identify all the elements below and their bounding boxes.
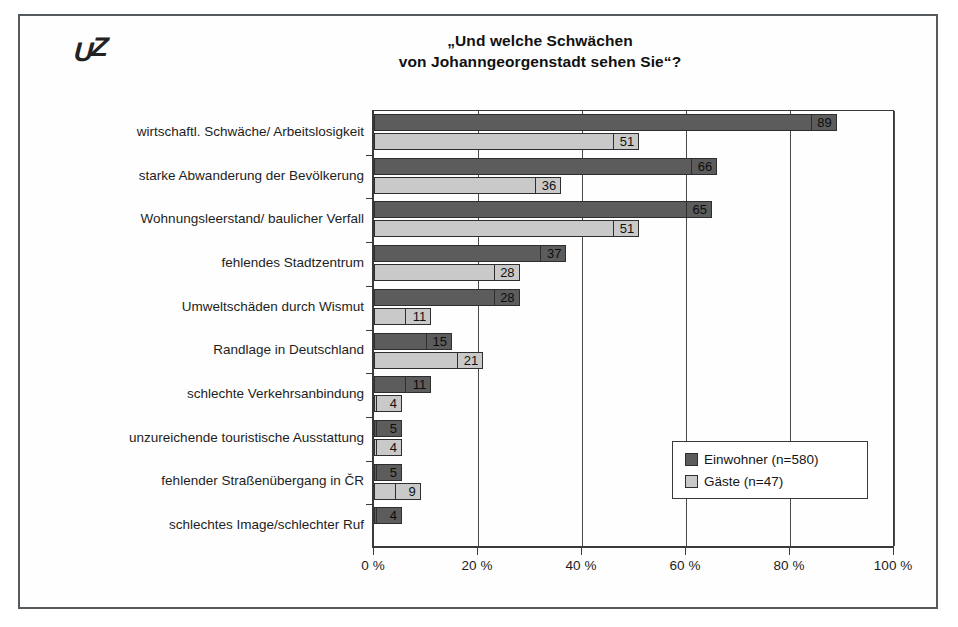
bar-ga [374,220,639,237]
category-label: Umweltschäden durch Wismut [40,299,364,315]
category-label: starke Abwanderung der Bevölkerung [40,168,364,184]
x-axis-tick [789,547,790,555]
y-axis-tick [366,198,374,199]
bar-value-label: 36 [535,177,561,194]
bar-value-label: 28 [494,264,520,281]
y-axis-tick [366,330,374,331]
y-axis-tick [366,504,374,505]
bar-ga [374,133,639,150]
bar-value-label: 21 [457,352,483,369]
bar-value-label: 51 [613,133,639,150]
y-axis-tick [366,417,374,418]
bar-value-label: 4 [376,507,402,524]
bar-ew [374,245,566,262]
y-axis-tick [366,286,374,287]
x-axis-label: 100 % [874,558,912,573]
chart-title-line-2: von Johanngeorgenstadt sehen Sie“? [300,51,780,72]
bar-value-label: 11 [405,308,431,325]
bar-ew [374,158,717,175]
bar-ew [374,114,837,131]
bar-value-label: 37 [540,245,566,262]
uz-logo: UZ [73,32,136,72]
category-label: wirtschaftl. Schwäche/ Arbeitslosigkeit [40,124,364,140]
bar-value-label: 4 [376,439,402,456]
x-axis-label: 40 % [566,558,597,573]
x-axis-tick [685,547,686,555]
bar-ga [374,177,561,194]
legend-swatch-icon [685,475,698,488]
legend-item: Gäste (n=47) [685,470,867,492]
gridline-100 [894,111,895,546]
bar-value-label: 66 [691,158,717,175]
bar-value-label: 4 [376,395,402,412]
category-label: Wohnungsleerstand/ baulicher Verfall [40,211,364,227]
bar-ew [374,201,712,218]
gridline-40 [582,111,583,546]
category-label: schlechtes Image/schlechter Ruf [40,517,364,533]
y-axis-tick [366,461,374,462]
bar-value-label: 28 [494,289,520,306]
x-axis-label: 0 % [361,558,384,573]
legend-item-label: Einwohner (n=580) [704,452,818,467]
bar-value-label: 65 [686,201,712,218]
y-axis-tick [366,155,374,156]
category-label: unzureichende touristische Ausstattung [40,430,364,446]
bar-value-label: 15 [426,333,452,350]
category-label: Randlage in Deutschland [40,342,364,358]
x-axis-tick [373,547,374,555]
x-axis-label: 20 % [462,558,493,573]
bar-value-label: 11 [405,376,431,393]
bar-value-label: 89 [811,114,837,131]
category-axis-labels: wirtschaftl. Schwäche/ Arbeitslosigkeits… [40,110,364,547]
category-label: fehlendes Stadtzentrum [40,255,364,271]
x-axis-tick [477,547,478,555]
chart-title-line-1: „Und welche Schwächen [300,30,780,51]
logo-letter-z: Z [89,27,106,67]
category-label: schlechte Verkehrsanbindung [40,386,364,402]
legend-item: Einwohner (n=580) [685,448,867,470]
bar-value-label: 9 [395,483,421,500]
bar-value-label: 51 [613,220,639,237]
bar-value-label: 5 [376,464,402,481]
bar-value-label: 5 [376,420,402,437]
chart-title: „Und welche Schwächen von Johanngeorgens… [300,30,780,72]
x-axis-label: 80 % [774,558,805,573]
y-axis-tick [366,373,374,374]
chart-legend: Einwohner (n=580)Gäste (n=47) [672,441,868,499]
category-label: fehlender Straßenübergang in ČR [40,473,364,489]
x-axis-line [372,547,894,548]
x-axis-label: 60 % [670,558,701,573]
legend-swatch-icon [685,453,698,466]
x-axis-tick [893,547,894,555]
x-axis-tick [581,547,582,555]
legend-item-label: Gäste (n=47) [704,474,783,489]
y-axis-tick [366,242,374,243]
